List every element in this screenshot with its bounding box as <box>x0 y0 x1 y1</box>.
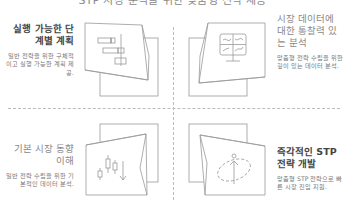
monitor-charts-icon <box>186 20 268 100</box>
feature-title: 즉각적인 STP 전략 개발 <box>277 146 343 170</box>
candlestick-down-icon <box>82 118 164 198</box>
target-arrow-icon <box>186 118 268 198</box>
feature-stp-strategy: 즉각적인 STP 전략 개발 맞춤형 STP 전략으로 빠른 시장 진입 지원. <box>277 146 343 192</box>
feature-title: 실행 가능한 단계별 계획 <box>6 23 74 47</box>
horizontal-divider <box>8 108 340 109</box>
feature-title: 시장 데이터에 대한 통찰력 있는 분석 <box>277 13 343 49</box>
feature-description: 일반 전략 수립을 위한 기본적인 데이터 분석. <box>6 172 74 189</box>
feature-description: 일반 전략을 위한 구체적이고 실행 가능한 계획 제공. <box>6 52 74 77</box>
feature-actionable-plan: 실행 가능한 단계별 계획 일반 전략을 위한 구체적이고 실행 가능한 계획 … <box>6 23 74 77</box>
feature-description: 맞춤형 STP 전략으로 빠른 시장 진입 지원. <box>277 175 343 192</box>
feature-title: 기본 시장 동향 이해 <box>6 143 74 167</box>
feature-market-trends: 기본 시장 동향 이해 일반 전략 수립을 위한 기본적인 데이터 분석. <box>6 143 74 189</box>
feature-market-insight: 시장 데이터에 대한 통찰력 있는 분석 맞춤형 전략 수립을 위한 깊이 있는… <box>277 13 343 71</box>
gantt-chart-icon <box>82 20 164 100</box>
vertical-divider <box>173 27 174 200</box>
feature-description: 맞춤형 전략 수립을 위한 깊이 있는 데이터 분석. <box>277 54 343 71</box>
page-title: STP 시장 분석을 위한 맞춤형 전략 제공 <box>0 0 345 7</box>
